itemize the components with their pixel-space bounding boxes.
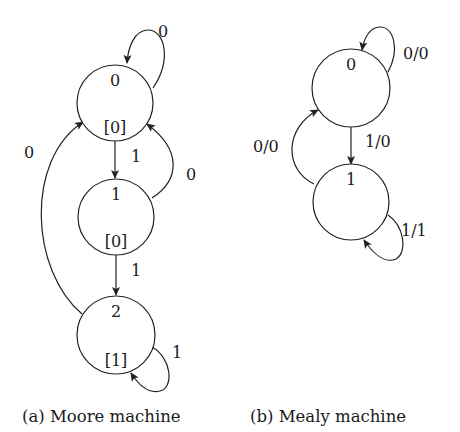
moore-transition-label: 0 (24, 143, 34, 162)
moore-transition-label: 0 (158, 22, 168, 41)
mealy-transition-label: 1/1 (401, 221, 427, 240)
moore-machine-diagram: 0[0]1[0]2[1]010101 (24, 22, 196, 392)
state-name: 1 (111, 185, 121, 204)
moore-state-1: 1[0] (78, 179, 154, 255)
state-output: [0] (105, 232, 128, 251)
moore-transition-label: 0 (186, 165, 196, 184)
mealy-state-0: 0 (312, 49, 390, 127)
moore-transition-2-to-0 (41, 122, 83, 314)
mealy-state-1: 1 (313, 164, 389, 240)
state-diagram-canvas: 0[0]1[0]2[1]010101 010/01/00/01/1 (a) Mo… (0, 0, 460, 432)
mealy-transition-1-to-0 (292, 110, 318, 184)
mealy-transition-label: 0/0 (253, 137, 279, 156)
state-output: [0] (104, 118, 127, 137)
mealy-machine-diagram: 010/01/00/01/1 (253, 27, 429, 260)
moore-transition-1-to-0 (147, 124, 173, 198)
moore-state-0: 0[0] (77, 65, 153, 141)
moore-caption: (a) Moore machine (22, 407, 181, 426)
state-name: 0 (346, 55, 356, 74)
moore-transition-label: 1 (172, 343, 182, 362)
moore-transition-label: 1 (131, 261, 141, 280)
mealy-transition-label: 1/0 (365, 132, 391, 151)
mealy-caption: (b) Mealy machine (250, 407, 406, 426)
state-output: [1] (105, 351, 128, 370)
moore-state-2: 2[1] (77, 296, 155, 374)
mealy-transition-label: 0/0 (403, 44, 429, 63)
state-name: 1 (346, 170, 356, 189)
state-name: 0 (110, 71, 120, 90)
moore-transition-label: 1 (131, 147, 141, 166)
state-name: 2 (111, 302, 121, 321)
